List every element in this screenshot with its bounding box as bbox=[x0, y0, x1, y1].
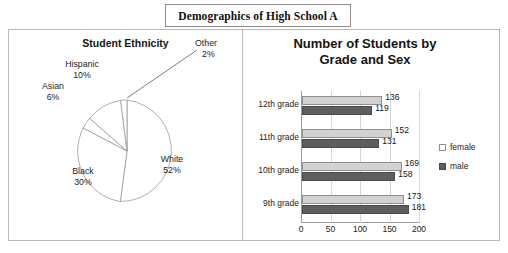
bar-value-label: 119 bbox=[375, 103, 389, 113]
legend-swatch-male bbox=[439, 163, 446, 170]
pie-svg bbox=[75, 99, 179, 203]
legend-item-male: male bbox=[439, 161, 497, 171]
legend-item-female: female bbox=[439, 142, 497, 152]
bar-value-label: 181 bbox=[412, 202, 426, 212]
bar-group: 136119 bbox=[302, 91, 419, 124]
bar-male-9th-grade bbox=[302, 205, 409, 214]
bar-value-label: 169 bbox=[405, 158, 419, 168]
bar-value-label: 173 bbox=[407, 191, 421, 201]
bar-chart-title: Number of Students by Grade and Sex bbox=[249, 36, 481, 68]
bar-male-12th-grade bbox=[302, 106, 372, 115]
bar-value-label: 136 bbox=[385, 92, 399, 102]
bar-chart-legend: female male bbox=[439, 142, 497, 180]
bar-female-11th-grade bbox=[302, 129, 392, 138]
legend-label-female: female bbox=[450, 142, 476, 152]
pie-label-hispanic: Hispanic 10% bbox=[46, 59, 118, 80]
pie-slice-white bbox=[120, 100, 171, 202]
bar-group: 169158 bbox=[302, 157, 419, 190]
pie-chart-graphic bbox=[75, 99, 179, 203]
pie-chart-panel: Student Ethnicity Other 2% bbox=[9, 30, 242, 240]
x-axis-tick-labels: 050100150200 bbox=[301, 224, 431, 236]
category-label-11th-grade: 11th grade bbox=[245, 132, 299, 142]
x-tick-100: 100 bbox=[353, 224, 367, 234]
pie-label-other: Other 2% bbox=[195, 38, 217, 59]
bar-chart-panel: Number of Students by Grade and Sex 12th… bbox=[243, 30, 500, 240]
x-tick-50: 50 bbox=[326, 224, 335, 234]
legend-swatch-female bbox=[439, 144, 446, 151]
x-tick-0: 0 bbox=[299, 224, 304, 234]
bar-male-10th-grade bbox=[302, 172, 395, 181]
bar-group: 152131 bbox=[302, 124, 419, 157]
pie-label-asian: Asian 6% bbox=[29, 81, 77, 102]
bar-female-9th-grade bbox=[302, 195, 404, 204]
other-leader-line bbox=[117, 48, 201, 104]
category-label-9th-grade: 9th grade bbox=[245, 198, 299, 208]
page-title: Demographics of High School A bbox=[178, 10, 337, 22]
bar-value-label: 158 bbox=[398, 169, 412, 179]
x-tick-150: 150 bbox=[382, 224, 396, 234]
category-label-12th-grade: 12th grade bbox=[245, 99, 299, 109]
category-label-10th-grade: 10th grade bbox=[245, 165, 299, 175]
pie-label-black: Black 30% bbox=[55, 166, 111, 187]
bar-plot-area: 136119152131169158173181 bbox=[301, 91, 419, 223]
bar-value-label: 131 bbox=[382, 136, 396, 146]
pie-label-white: White 52% bbox=[147, 154, 197, 175]
page-title-box: Demographics of High School A bbox=[165, 4, 351, 27]
legend-label-male: male bbox=[450, 161, 468, 171]
charts-frame: Student Ethnicity Other 2% bbox=[8, 29, 500, 241]
bar-value-label: 152 bbox=[395, 125, 409, 135]
bar-female-10th-grade bbox=[302, 162, 402, 171]
bar-group: 173181 bbox=[302, 190, 419, 223]
bar-female-12th-grade bbox=[302, 96, 382, 105]
bar-category-labels: 12th grade11th grade10th grade9th grade bbox=[243, 91, 299, 223]
bar-male-11th-grade bbox=[302, 139, 379, 148]
x-tick-200: 200 bbox=[412, 224, 426, 234]
